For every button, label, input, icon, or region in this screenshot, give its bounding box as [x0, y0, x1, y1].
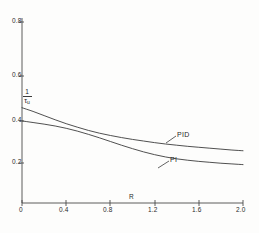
x-axis-title: R [129, 193, 134, 200]
y-tick-label-0_4: 0.4 [12, 116, 22, 123]
x-tick-label-0: 0 [19, 206, 23, 213]
leader-line-pi [158, 161, 169, 168]
chart-figure: 0.8 0.6 0.4 0.2 0 0.4 0.8 1.2 1.6 2.0 R … [0, 0, 259, 233]
x-tick-label-0_4: 0.4 [59, 206, 69, 213]
curve-pid [22, 108, 243, 151]
y-axis-title: 1 τu [17, 88, 37, 106]
leader-line-pid [166, 136, 176, 143]
curve-label-pid: PID [177, 131, 190, 138]
y-axis-title-numerator: 1 [17, 88, 37, 95]
y-tick-label-0_6: 0.6 [12, 71, 22, 78]
y-axis-title-denominator: τu [17, 97, 37, 106]
x-tick-label-1_2: 1.2 [148, 206, 158, 213]
x-tick-label-1_6: 1.6 [192, 206, 202, 213]
x-tick-label-2_0: 2.0 [236, 206, 246, 213]
x-tick-label-0_8: 0.8 [103, 206, 113, 213]
y-tick-label-0_8: 0.8 [12, 17, 22, 24]
curve-label-pi: PI [170, 156, 177, 163]
y-tick-label-0_2: 0.2 [12, 158, 22, 165]
curve-pi [22, 121, 243, 165]
tau-subscript: u [27, 99, 30, 105]
